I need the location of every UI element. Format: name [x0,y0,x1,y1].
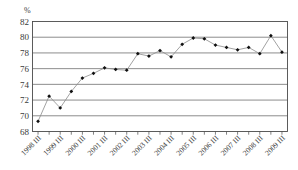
y-axis-tick-label: 82 [20,17,29,27]
y-axis-tick-label: 74 [20,80,30,90]
y-axis-tick-label: 70 [20,111,30,121]
y-axis-tick-label: 78 [20,48,30,58]
y-axis-tick-label: 76 [20,64,30,74]
line-chart: % 6870727476788082 1998 III1999 III2000 … [0,0,298,170]
chart-container: % 6870727476788082 1998 III1999 III2000 … [0,0,298,170]
y-axis-unit-label: % [24,6,31,15]
y-axis-tick-label: 72 [20,95,29,105]
y-axis-tick-label: 80 [20,32,30,42]
y-axis-tick-label: 68 [20,127,30,137]
